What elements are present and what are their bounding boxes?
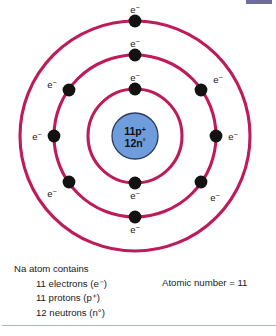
electron-label: e−: [47, 79, 56, 91]
electron-dot: [210, 130, 223, 143]
electron-label: e−: [228, 131, 237, 143]
electron-label: e−: [130, 72, 139, 84]
electron-dot: [195, 176, 208, 189]
bottom-divider-rule: [2, 325, 276, 326]
electron-dot: [63, 84, 76, 97]
electron-label: e−: [130, 224, 139, 236]
electron-label: e−: [47, 188, 56, 200]
nucleus-neutrons-label: 12n°: [125, 137, 146, 149]
composition-item-protons: 11 protons (p⁺): [36, 291, 107, 306]
composition-item-neutrons: 12 neutrons (n°): [36, 306, 107, 321]
electron-dot: [129, 83, 142, 96]
figure-canvas: 11p+ 12n° e− e− e− e−: [0, 0, 276, 336]
bohr-model-svg: 11p+ 12n° e− e− e− e−: [0, 0, 276, 262]
electron-dot: [129, 49, 142, 62]
electron-dot: [48, 130, 61, 143]
electron-dot: [129, 15, 142, 28]
electron-dot: [63, 176, 76, 189]
electron-label: e−: [210, 192, 219, 204]
composition-list: Na atom contains 11 electrons (e⁻) 11 pr…: [14, 262, 107, 320]
composition-item-electrons: 11 electrons (e⁻): [36, 277, 107, 292]
electron-label: e−: [130, 4, 139, 16]
caption-block: Na atom contains 11 electrons (e⁻) 11 pr…: [0, 258, 276, 328]
electron-dot: [129, 211, 142, 224]
composition-heading: Na atom contains: [14, 262, 107, 277]
electron-label: e−: [130, 38, 139, 50]
electron-label: e−: [32, 131, 41, 143]
electron-dot: [195, 84, 208, 97]
electron-dot: [129, 177, 142, 190]
electron-label: e−: [130, 190, 139, 202]
atom-diagram: 11p+ 12n° e− e− e− e−: [0, 0, 276, 262]
electron-label: e−: [213, 74, 222, 86]
atomic-number-label: Atomic number = 11: [162, 277, 247, 288]
